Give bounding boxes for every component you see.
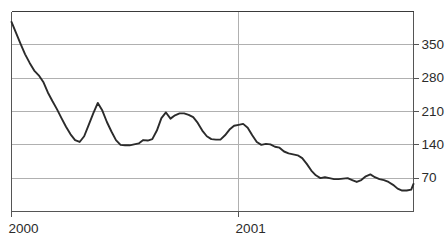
data-line-series-price (12, 22, 414, 191)
chart-canvas (0, 0, 445, 242)
series-line-price (12, 22, 414, 191)
line-chart: 35028021014070 20002001 (0, 0, 445, 242)
y-tick-label-140: 140 (422, 137, 445, 152)
x-tick-label-2001: 2001 (236, 221, 266, 236)
tick-marks (12, 45, 419, 217)
y-tick-label-210: 210 (422, 104, 445, 119)
y-tick-label-70: 70 (422, 170, 437, 185)
y-tick-label-350: 350 (422, 37, 445, 52)
x-tick-label-2000: 2000 (9, 221, 39, 236)
y-tick-label-280: 280 (422, 70, 445, 85)
